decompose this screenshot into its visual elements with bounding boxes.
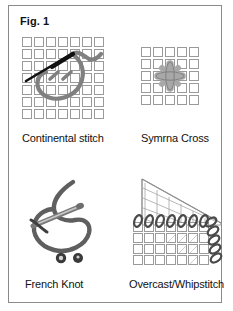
caption-symrna-cross: Symrna Cross [141, 132, 209, 144]
caption-french-knot: French Knot [25, 278, 83, 290]
front-canvas-grid [134, 223, 209, 265]
knot-dot-right [73, 253, 83, 263]
french-knot-art [25, 178, 115, 266]
panel-overcast-whipstitch [129, 176, 229, 268]
caption-continental-stitch: Continental stitch [22, 132, 104, 144]
overcast-whipstitch-art [129, 176, 229, 268]
knot-dot-left [56, 253, 66, 263]
continental-stitch-art [22, 37, 114, 129]
figure-frame: Fig. 1 [8, 5, 222, 303]
caption-overcast-whipstitch: Overcast/Whipstitch [129, 278, 224, 290]
panel-symrna-cross [141, 47, 211, 117]
panel-french-knot [25, 178, 115, 266]
figure-title: Fig. 1 [20, 15, 49, 27]
panel-continental-stitch [22, 37, 114, 129]
symrna-cross-art [141, 47, 211, 117]
